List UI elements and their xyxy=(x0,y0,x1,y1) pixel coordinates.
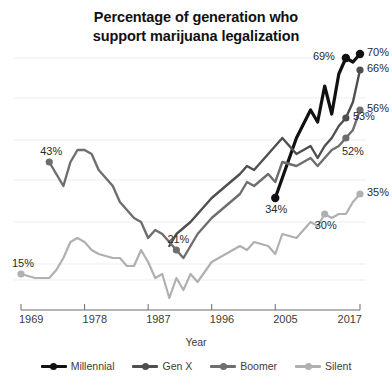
x-axis xyxy=(21,304,360,310)
data-point-label: 34% xyxy=(265,203,287,215)
data-point-label: 21% xyxy=(167,233,189,245)
chart-legend: MillennialGen XBoomerSilent xyxy=(0,360,392,372)
legend-item-gen-x[interactable]: Gen X xyxy=(132,360,192,372)
legend-swatch-icon xyxy=(41,361,67,371)
x-tick-label: 1996 xyxy=(210,313,234,325)
data-point-label: 52% xyxy=(342,145,364,157)
series-lines xyxy=(21,54,360,298)
data-point-label: 30% xyxy=(315,219,337,231)
data-point-marker xyxy=(342,114,349,121)
legend-item-millennial[interactable]: Millennial xyxy=(41,360,115,372)
legend-item-boomer[interactable]: Boomer xyxy=(210,360,277,372)
legend-swatch-icon xyxy=(295,361,321,371)
x-tick-label: 1978 xyxy=(83,313,107,325)
legend-label: Gen X xyxy=(162,360,192,372)
x-tick-label: 2005 xyxy=(273,313,297,325)
data-point-marker xyxy=(46,158,53,165)
legend-label: Boomer xyxy=(240,360,277,372)
x-tick-label: 1987 xyxy=(146,313,170,325)
x-tick-label: 1969 xyxy=(19,313,43,325)
chart-container: Percentage of generation who support mar… xyxy=(0,0,392,387)
legend-label: Silent xyxy=(325,360,351,372)
legend-item-silent[interactable]: Silent xyxy=(295,360,351,372)
data-point-marker xyxy=(321,210,328,217)
data-point-label: 43% xyxy=(40,145,62,157)
data-point-label: 56% xyxy=(367,102,389,114)
data-point-marker xyxy=(356,190,363,197)
x-axis-title: Year xyxy=(0,336,392,348)
x-tick-label: 2017 xyxy=(338,313,362,325)
data-point-label: 70% xyxy=(367,46,389,58)
data-point-label: 35% xyxy=(367,186,389,198)
legend-swatch-icon xyxy=(132,361,158,371)
series-line-millennial xyxy=(275,54,360,198)
data-point-marker xyxy=(342,54,350,62)
legend-swatch-icon xyxy=(210,361,236,371)
legend-label: Millennial xyxy=(71,360,115,372)
data-point-marker xyxy=(356,50,364,58)
data-point-label: 69% xyxy=(313,50,335,62)
data-point-marker xyxy=(356,66,363,73)
series-line-boomer xyxy=(49,110,360,258)
data-point-marker xyxy=(271,194,279,202)
data-point-marker xyxy=(173,246,180,253)
data-point-marker xyxy=(17,270,24,277)
data-point-marker xyxy=(342,134,349,141)
data-point-label: 66% xyxy=(367,62,389,74)
data-point-label: 15% xyxy=(12,257,34,269)
